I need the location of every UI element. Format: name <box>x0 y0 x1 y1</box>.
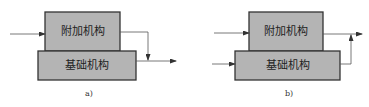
base-mechanism-label-b: 基础机构 <box>266 58 310 72</box>
panel-b: 附加机构 基础机构 b) <box>212 12 362 98</box>
caption-b: b) <box>285 89 293 98</box>
additional-mechanism-label-b: 附加机构 <box>264 24 308 38</box>
base-mechanism-label-a: 基础机构 <box>65 58 109 72</box>
additional-mechanism-label-a: 附加机构 <box>61 24 105 38</box>
base-output-arrow-b <box>340 35 351 64</box>
panel-a: 附加机构 基础机构 a) <box>10 12 176 98</box>
caption-a: a) <box>85 89 93 98</box>
diagram-canvas: 附加机构 基础机构 a) 附加机构 基础机构 b) <box>0 0 369 107</box>
